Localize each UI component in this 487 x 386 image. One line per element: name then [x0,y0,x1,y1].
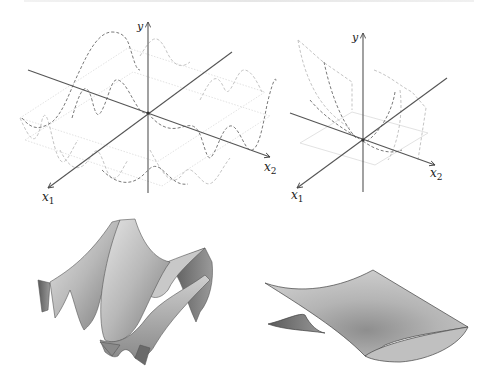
x1-axis [48,52,232,188]
wave-curves-light [20,39,262,184]
axes [290,33,447,192]
x1-axis [297,78,447,188]
figure-canvas: y x1 x2 y x1 x2 [0,0,487,386]
x1-axis-label: x1 [42,190,55,206]
x2-axis-label: x2 [430,166,443,182]
y-axis-label: y [136,20,144,33]
panel-top-right: y x1 x2 [290,31,447,204]
panel-bottom-right-surface [265,270,468,362]
reference-planes [20,48,270,186]
x1-axis-label: x1 [291,188,304,204]
x2-axis-label: x2 [264,160,277,176]
y-axis-label: y [351,31,359,44]
saddle-curves-dark [310,62,402,152]
saddle-curves-light [298,40,426,160]
panel-bottom-left-surface [38,219,213,365]
panel-top-left: y x1 x2 [20,20,277,206]
axes [28,22,270,193]
